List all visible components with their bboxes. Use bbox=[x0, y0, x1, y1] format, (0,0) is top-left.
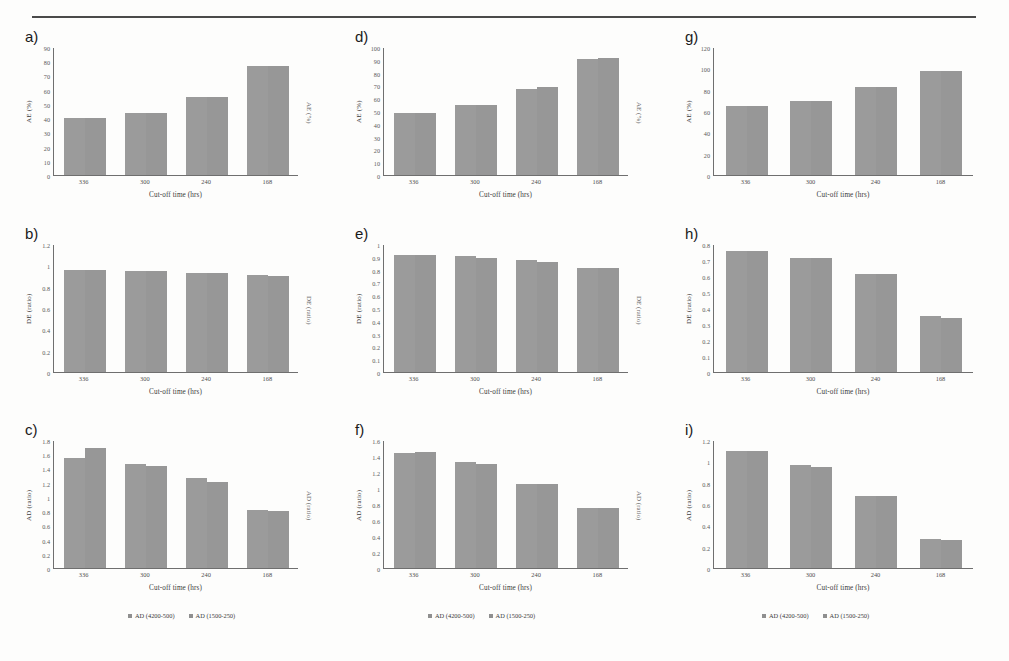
x-tick-label: 336 bbox=[383, 571, 444, 583]
bar bbox=[455, 256, 476, 371]
y-axis-title-i: AD (ratio) bbox=[682, 441, 696, 569]
bar bbox=[516, 260, 537, 372]
y-tick-label: 0.8 bbox=[42, 509, 50, 516]
bar bbox=[577, 508, 598, 567]
x-tick-label: 300 bbox=[114, 375, 175, 387]
bar bbox=[415, 255, 436, 372]
bar-group bbox=[54, 441, 115, 568]
bar bbox=[876, 87, 897, 175]
bars-f bbox=[384, 441, 628, 568]
y-tick-label: 0.1 bbox=[702, 354, 710, 361]
y-tick-label: 40 bbox=[44, 116, 50, 123]
y-tick-label: 20 bbox=[44, 144, 50, 151]
bar-group bbox=[779, 441, 844, 568]
bar bbox=[941, 540, 962, 567]
y-tick-label: 80 bbox=[44, 59, 50, 66]
axes-b bbox=[53, 245, 298, 373]
x-axis-line bbox=[713, 372, 973, 373]
y-tick-label: 80 bbox=[374, 70, 380, 77]
bar bbox=[85, 118, 106, 174]
bar bbox=[415, 113, 436, 175]
x-axis-title-e: Cut-off time (hrs) bbox=[383, 388, 628, 396]
x-tick-label: 168 bbox=[237, 571, 298, 583]
bar bbox=[876, 496, 897, 568]
plot-area-h: DE (ratio)00.10.20.30.40.50.60.70.833630… bbox=[682, 245, 987, 415]
y-axis-title-right-c: AD (ratio) bbox=[302, 445, 316, 567]
x-axis-line bbox=[713, 568, 973, 569]
bar-group bbox=[237, 441, 298, 568]
y-tick-label: 0.1 bbox=[372, 357, 380, 364]
y-tick-label: 0.6 bbox=[42, 523, 50, 530]
y-axis-title-g: AE (%) bbox=[682, 48, 696, 176]
axes-c bbox=[53, 441, 298, 569]
panel-b: b)DE (ratio)DE (ratio)00.20.40.60.811.23… bbox=[0, 223, 330, 419]
bar bbox=[268, 511, 289, 567]
panel-label-g: g) bbox=[685, 28, 698, 45]
legend-item: AD (4200-500) bbox=[428, 612, 475, 619]
bar-group bbox=[384, 48, 445, 175]
x-tick-label: 240 bbox=[506, 375, 567, 387]
y-axis-title-d: AE (%) bbox=[352, 48, 366, 176]
y-tick-label: 120 bbox=[701, 45, 710, 52]
y-tick-label: 0.6 bbox=[702, 274, 710, 281]
y-tick-label: 1.2 bbox=[42, 480, 50, 487]
bar bbox=[64, 270, 85, 371]
x-tick-label: 336 bbox=[53, 375, 114, 387]
bar-group bbox=[779, 48, 844, 175]
bar bbox=[186, 97, 207, 174]
y-tick-label: 0.4 bbox=[372, 318, 380, 325]
bar-group bbox=[908, 441, 973, 568]
bar-group bbox=[714, 441, 779, 568]
bar bbox=[476, 105, 497, 175]
x-axis-ticks-i: 336300240168 bbox=[713, 571, 973, 583]
axes-h bbox=[713, 245, 973, 373]
y-axis-title-a: AE (%) bbox=[22, 48, 36, 176]
bar-group bbox=[445, 441, 506, 568]
x-tick-label: 300 bbox=[444, 375, 505, 387]
x-axis-title-g: Cut-off time (hrs) bbox=[713, 191, 973, 199]
bar-group bbox=[384, 245, 445, 372]
header-rule bbox=[32, 16, 976, 18]
bar bbox=[476, 258, 497, 372]
legend-swatch-icon bbox=[428, 614, 432, 618]
y-axis-title-c: AD (ratio) bbox=[22, 441, 36, 569]
x-tick-label: 240 bbox=[506, 178, 567, 190]
x-axis-title-i: Cut-off time (hrs) bbox=[713, 584, 973, 592]
bar bbox=[790, 258, 811, 372]
y-tick-label: 0 bbox=[47, 370, 50, 377]
axes-a bbox=[53, 48, 298, 176]
x-axis-ticks-e: 336300240168 bbox=[383, 375, 628, 387]
x-tick-label: 240 bbox=[843, 375, 908, 387]
bar-group bbox=[844, 245, 909, 372]
bar-group bbox=[714, 245, 779, 372]
bar bbox=[394, 453, 415, 568]
x-tick-label: 300 bbox=[114, 178, 175, 190]
bar bbox=[64, 458, 85, 568]
y-tick-label: 0.2 bbox=[372, 550, 380, 557]
bar bbox=[186, 273, 207, 372]
legend-item: AD (1500-250) bbox=[489, 612, 536, 619]
x-axis-ticks-d: 336300240168 bbox=[383, 178, 628, 190]
y-tick-label: 0.6 bbox=[42, 306, 50, 313]
x-axis-ticks-h: 336300240168 bbox=[713, 375, 973, 387]
y-tick-label: 0.2 bbox=[702, 338, 710, 345]
bar-group bbox=[237, 245, 298, 372]
y-axis-title-right-f: AD (ratio) bbox=[632, 445, 646, 567]
bar bbox=[726, 251, 747, 371]
x-axis-ticks-f: 336300240168 bbox=[383, 571, 628, 583]
y-tick-label: 60 bbox=[374, 96, 380, 103]
x-tick-label: 300 bbox=[444, 178, 505, 190]
bar bbox=[920, 71, 941, 175]
y-tick-label: 0 bbox=[377, 370, 380, 377]
x-tick-label: 300 bbox=[778, 375, 843, 387]
x-tick-label: 168 bbox=[567, 571, 628, 583]
y-axis-ticks-h: 00.10.20.30.40.50.60.70.8 bbox=[695, 245, 712, 373]
axes-g bbox=[713, 48, 973, 176]
bars-c bbox=[54, 441, 298, 568]
y-axis-title-right-a: AE (%) bbox=[302, 52, 316, 174]
x-axis-ticks-a: 336300240168 bbox=[53, 178, 298, 190]
bar bbox=[125, 113, 146, 175]
x-tick-label: 336 bbox=[53, 178, 114, 190]
y-tick-label: 1.6 bbox=[42, 452, 50, 459]
panel-d: d)AE (%)AE (%)01020304050607080901003363… bbox=[330, 26, 660, 223]
